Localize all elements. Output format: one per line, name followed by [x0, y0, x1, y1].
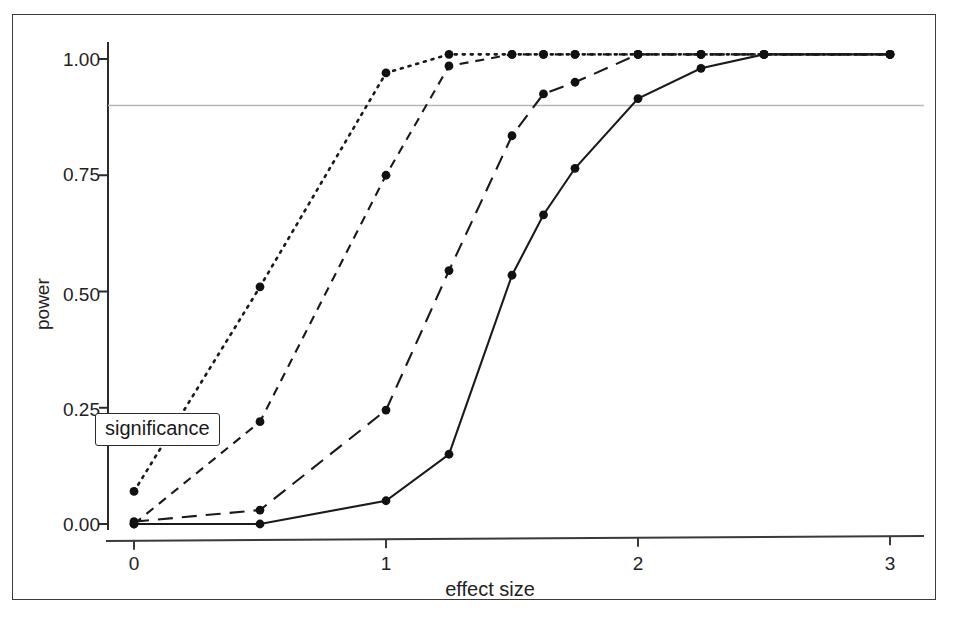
data-point-curve-4-4 — [508, 271, 517, 280]
data-point-curve-4-10 — [886, 50, 895, 59]
data-point-curve-3-7 — [634, 50, 643, 59]
x-tick-label-0: 0 — [114, 553, 154, 575]
data-point-curve-4-7 — [634, 94, 643, 103]
data-point-curve-1-0 — [130, 487, 139, 496]
data-point-curve-2-1 — [256, 417, 265, 426]
data-point-curve-3-2 — [382, 406, 391, 415]
data-point-curve-1-1 — [256, 282, 265, 291]
significance-annotation: significance — [95, 413, 220, 446]
x-tick-label-1: 1 — [366, 553, 406, 575]
series-line-curve-3 — [134, 54, 890, 521]
y-tick-label-0.25: 0.25 — [26, 399, 100, 421]
data-point-curve-3-6 — [571, 78, 580, 87]
data-point-curve-2-3 — [445, 62, 454, 71]
data-point-curve-4-8 — [697, 64, 706, 73]
data-point-curve-2-6 — [571, 50, 580, 59]
y-tick-label-0.75: 0.75 — [26, 164, 100, 186]
data-point-curve-3-3 — [445, 266, 454, 275]
chart-group — [99, 42, 924, 550]
data-point-curve-1-2 — [382, 69, 391, 78]
data-point-curve-4-1 — [256, 520, 265, 529]
x-tick-label-3: 3 — [870, 553, 910, 575]
data-point-curve-1-3 — [445, 50, 454, 59]
data-point-curve-4-3 — [445, 450, 454, 459]
x-axis-label: effect size — [400, 578, 580, 601]
data-point-curve-4-9 — [760, 50, 769, 59]
data-point-curve-3-4 — [508, 131, 517, 140]
data-point-curve-2-5 — [539, 50, 548, 59]
series-line-curve-2 — [134, 54, 890, 524]
data-point-curve-3-8 — [697, 50, 706, 59]
data-point-curve-4-2 — [382, 496, 391, 505]
y-axis-label: power — [32, 278, 54, 330]
series-line-curve-4 — [134, 54, 890, 524]
x-tick-label-2: 2 — [618, 553, 658, 575]
data-point-curve-4-6 — [571, 164, 580, 173]
data-point-curve-3-5 — [539, 89, 548, 98]
data-point-curve-3-1 — [256, 506, 265, 515]
y-tick-label-1.00: 1.00 — [26, 49, 100, 71]
data-point-curve-4-5 — [539, 210, 548, 219]
y-tick-label-0.00: 0.00 — [26, 514, 100, 536]
data-point-curve-4-0 — [130, 520, 139, 529]
power-curve-figure: 1.00 0.75 0.50 0.25 0.00 0 1 2 3 power e… — [0, 0, 954, 618]
data-point-curve-2-2 — [382, 171, 391, 180]
data-point-curve-2-4 — [508, 50, 517, 59]
x-axis-spine — [106, 536, 924, 541]
plot-canvas — [0, 0, 954, 618]
